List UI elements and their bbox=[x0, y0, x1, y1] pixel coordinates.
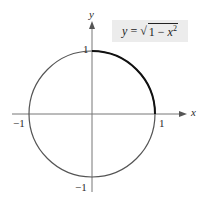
tick-x-neg: −1 bbox=[13, 118, 25, 129]
y-axis-label: y bbox=[89, 9, 94, 20]
upper-right-arc bbox=[92, 51, 155, 114]
radicand-const: 1 − bbox=[149, 25, 168, 39]
radicand: 1 − x2 bbox=[148, 23, 178, 40]
x-axis-label: x bbox=[191, 107, 196, 118]
sqrt-icon: √ bbox=[140, 24, 147, 39]
tick-x-pos: 1 bbox=[159, 118, 165, 129]
exponent: 2 bbox=[173, 24, 177, 33]
tick-y-pos: 1 bbox=[83, 44, 89, 55]
eq-sign: = bbox=[127, 24, 140, 39]
equation-label: y = √1 − x2 bbox=[112, 20, 188, 42]
x-axis-arrow-icon bbox=[179, 111, 187, 117]
tick-y-neg: −1 bbox=[75, 182, 87, 193]
y-axis-arrow-icon bbox=[89, 21, 95, 29]
